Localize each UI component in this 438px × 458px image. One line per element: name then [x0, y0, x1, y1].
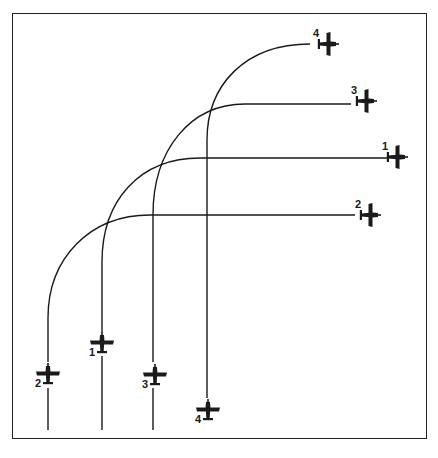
aircraft-number-label: 3 — [351, 84, 357, 96]
airplane-icon — [318, 32, 339, 56]
aircraft-4-end: 4 — [313, 27, 339, 56]
flight-path-2 — [48, 215, 355, 430]
aircraft-4-start: 4 — [195, 399, 220, 425]
flight-path-3 — [153, 104, 351, 430]
airplane-icon — [356, 89, 377, 113]
aircraft-3-end: 3 — [351, 84, 377, 113]
flight-paths — [48, 44, 387, 430]
aircraft-2-end: 2 — [355, 198, 381, 227]
aircraft-1-end: 1 — [382, 140, 408, 169]
aircraft-number-label: 1 — [382, 140, 388, 152]
aircraft-1-start: 1 — [89, 332, 114, 358]
maneuver-diagram: 12344312 — [0, 0, 438, 458]
aircraft-3-start: 3 — [142, 364, 167, 390]
aircraft-2-start: 2 — [35, 363, 60, 389]
airplane-icon — [387, 145, 408, 169]
flight-path-4 — [207, 44, 310, 398]
aircraft-number-label: 2 — [35, 377, 41, 389]
aircraft-number-label: 3 — [142, 378, 148, 390]
airplane-icon — [360, 203, 381, 227]
aircraft-number-label: 2 — [355, 198, 361, 210]
aircraft-number-label: 4 — [195, 413, 202, 425]
aircraft-number-label: 4 — [313, 27, 320, 39]
aircraft-number-label: 1 — [89, 346, 95, 358]
